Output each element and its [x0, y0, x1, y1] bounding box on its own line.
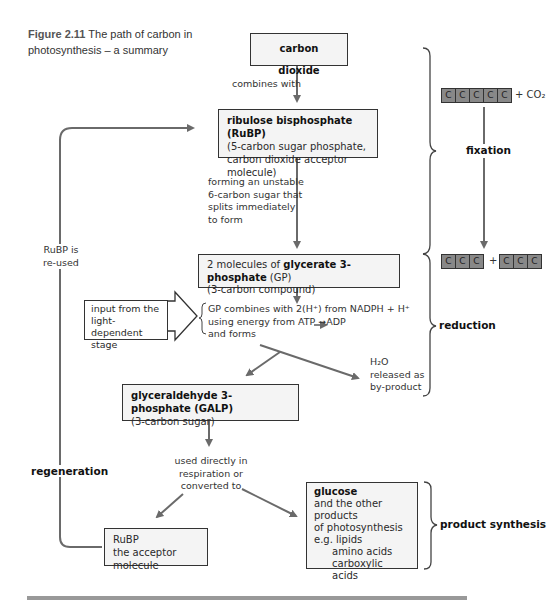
plus-label: +: [489, 255, 497, 268]
stage-regeneration: regeneration: [30, 465, 109, 477]
light-input-box: input from the light-dependent stage: [84, 300, 168, 340]
rubp-acceptor-box: RuBP the acceptor molecule: [104, 528, 208, 566]
galp-box: glyceraldehyde 3-phosphate (GALP) (3-car…: [122, 384, 299, 421]
carbon-dioxide-label: carbon dioxide: [278, 43, 319, 76]
stage-reduction: reduction: [439, 319, 496, 331]
gp-box: 2 molecules of glycerate 3-phosphate (GP…: [198, 254, 400, 288]
ribp-carbon-chain: C C C C C: [441, 88, 512, 103]
gp-desc: (3-carbon compound): [207, 284, 391, 297]
rubp-desc-1: (5-carbon sugar phosphate,: [227, 140, 369, 153]
footer-rule: [27, 596, 467, 600]
glucose-title: glucose: [314, 486, 410, 498]
stage-fixation: fixation: [466, 144, 511, 156]
galp-title: glyceraldehyde 3-phosphate (GALP): [131, 389, 290, 415]
used-directly-label: used directly in respiration or converte…: [168, 455, 254, 493]
forming-label: forming an unstable 6-carbon sugar that …: [208, 176, 304, 226]
glucose-box: glucose and the other products of photos…: [306, 482, 418, 569]
water-byproduct-label: H₂O released as by-product: [370, 356, 424, 394]
gp-prefix: 2 molecules of: [207, 259, 283, 270]
reduction-step-label: GP combines with 2(H⁺) from NADPH + H⁺ u…: [208, 303, 410, 341]
rubp-box: ribulose bisphosphate (RuBP) (5-carbon s…: [218, 109, 378, 158]
input-arrow: [167, 292, 197, 340]
plus-co2-label: + CO₂: [515, 89, 545, 102]
carbon-dioxide-box: carbon dioxide: [250, 33, 348, 66]
rubp-reused-label: RuBP is re-used: [42, 244, 80, 269]
gp-carbon-chain-2: C C C: [499, 254, 542, 269]
stage-product-synthesis: product synthesis: [440, 518, 546, 530]
gp-carbon-chain-1: C C C: [441, 254, 484, 269]
combines-with-label: combines with: [232, 78, 301, 91]
rubp-title: ribulose bisphosphate (RuBP): [227, 114, 369, 140]
gp-suffix: (GP): [267, 272, 292, 283]
galp-desc: (3-carbon sugar): [131, 415, 290, 428]
